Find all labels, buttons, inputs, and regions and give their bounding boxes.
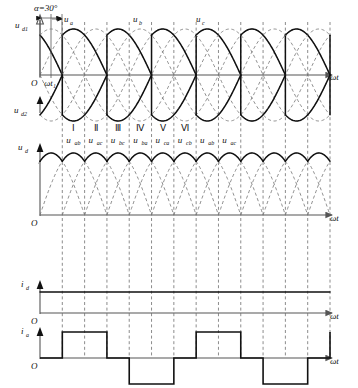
line-voltage-label-sub: ab <box>208 140 214 146</box>
ud-pulse-segment <box>62 153 84 161</box>
line-voltage-label: u <box>178 135 183 145</box>
sector-numeral: Ⅵ <box>181 123 189 133</box>
sector-numeral: Ⅱ <box>94 123 98 133</box>
phase-c-label-sub: c <box>202 20 205 26</box>
line-voltage-ghost-arc <box>308 161 330 215</box>
ud-pulse-segment <box>263 153 285 161</box>
ud-pulse-segment <box>107 153 129 161</box>
ud-pulse-segment <box>40 153 62 161</box>
line-voltage-label: u <box>200 135 205 145</box>
ud-waveform <box>40 153 330 161</box>
id-omega-t-label: ωt <box>330 311 339 321</box>
ud2-conduction-segment <box>196 75 241 121</box>
ud-axis-label: u <box>18 142 23 152</box>
id-axis-arrowhead <box>37 280 44 289</box>
line-voltage-label-sub: bc <box>119 140 125 146</box>
line-voltage-ghost-arc <box>40 153 107 215</box>
sector-numeral: Ⅴ <box>160 123 167 133</box>
id-axis-label-sub: d <box>26 285 30 291</box>
id-axis-label: i <box>21 279 24 289</box>
phase-c-label: u <box>196 14 201 24</box>
panel-ia: i a ωt O <box>21 326 339 384</box>
ud2-axis-label: u <box>14 105 19 115</box>
sector-labels: ⅠⅡⅢⅣⅤⅥ <box>72 123 189 133</box>
ud1-omega-t-label: ωt <box>330 72 339 82</box>
ud2-axis-label-sub: d2 <box>21 111 27 117</box>
phase-a-label: u <box>64 14 69 24</box>
line-voltage-label-sub: ab <box>74 140 80 146</box>
ud-pulse-segment <box>85 153 107 161</box>
ud2-axis-arrowhead <box>37 96 44 104</box>
line-voltage-ghost-arc <box>39 153 85 215</box>
line-voltage-label: u <box>89 135 94 145</box>
line-voltage-label: u <box>133 135 138 145</box>
line-voltage-label-sub: cb <box>186 140 192 146</box>
ud-pulse-segment <box>196 153 218 161</box>
ia-omega-t-label: ωt <box>330 356 339 366</box>
sector-numeral: Ⅳ <box>136 123 145 133</box>
sector-numeral: Ⅰ <box>72 123 75 133</box>
ud2-conduction-segment <box>285 75 330 121</box>
ud2-waveform <box>40 75 330 121</box>
ia-axis-label: i <box>21 326 24 336</box>
alpha-annotation: α=30° <box>34 3 58 13</box>
ud-pulse-segment <box>218 153 240 161</box>
line-voltage-label: u <box>155 135 160 145</box>
waveform-figure: u d1 α=30° u a u b u c ωt O ωt₁ u d2 ⅠⅡⅢ… <box>0 0 358 388</box>
ud-pulse-segment <box>129 153 151 161</box>
ud1-origin-label: O <box>31 78 38 88</box>
ud-pulse-segment <box>241 153 263 161</box>
panel-ud1: u d1 α=30° u a u b u c ωt O ωt₁ <box>15 3 339 121</box>
line-voltage-label-sub: ac <box>231 140 237 146</box>
ud2-conduction-segment <box>62 75 107 121</box>
ud1-axis-label: u <box>15 20 20 30</box>
line-voltage-label: u <box>222 135 227 145</box>
ud-pulse-segment <box>152 153 174 161</box>
ia-axis-arrowhead <box>37 327 44 336</box>
ud2-conduction-segment <box>152 75 197 121</box>
ud-pulse-segment <box>285 153 307 161</box>
phase-a-label-sub: a <box>70 20 73 26</box>
line-voltage-label: u <box>111 135 116 145</box>
ud-axis-label-sub: d <box>25 148 29 154</box>
line-voltage-label-sub: ac <box>97 140 103 146</box>
ud-omega-t-label: ωt <box>330 213 339 223</box>
panel-ud: u d ωt O <box>18 142 339 228</box>
line-voltage-label-sub: ba <box>141 140 147 146</box>
ud-ghost-curves <box>39 153 330 215</box>
phase-b-label-sub: b <box>139 20 142 26</box>
ia-origin-label: O <box>31 361 38 371</box>
ud1-axis-label-sub: d1 <box>22 26 28 32</box>
ud2-conduction-segment <box>107 75 152 121</box>
ia-axis-label-sub: a <box>26 332 29 338</box>
ud-pulse-segment <box>174 153 196 161</box>
ud-axis-arrowhead <box>37 143 44 152</box>
id-origin-label: O <box>31 316 38 326</box>
line-voltage-label-sub: ca <box>164 140 170 146</box>
line-voltage-label: u <box>66 135 71 145</box>
panel-id: i d ωt O <box>21 279 339 326</box>
ud-pulse-segment <box>308 153 330 161</box>
ud-origin-label: O <box>31 218 38 228</box>
ud1-waveform <box>40 29 330 75</box>
ud2-conduction-segment <box>241 75 286 121</box>
phase-b-label: u <box>133 14 138 24</box>
sector-numeral: Ⅲ <box>115 123 121 133</box>
